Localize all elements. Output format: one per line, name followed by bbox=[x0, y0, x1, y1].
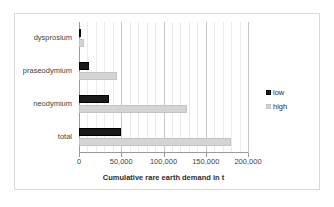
x-tick-label: 200,000 bbox=[234, 158, 261, 166]
legend-swatch-high-icon bbox=[266, 104, 271, 109]
legend-label-high: high bbox=[273, 103, 287, 111]
x-tick-label: 100,000 bbox=[150, 158, 177, 166]
legend-label-low: low bbox=[273, 89, 284, 97]
category-label-dysprosium: dysprosium bbox=[0, 34, 72, 42]
bar-total-high bbox=[79, 138, 231, 146]
bar-neodymium-low bbox=[79, 95, 109, 103]
bar-praseodymium-low bbox=[79, 62, 89, 70]
category-label-neodymium: neodymium bbox=[0, 100, 72, 108]
x-tick-label: 150,000 bbox=[192, 158, 219, 166]
bar-praseodymium-high bbox=[79, 72, 117, 80]
legend-item-low: low bbox=[266, 89, 287, 97]
bar-group bbox=[79, 22, 248, 55]
bar-dysprosium-low bbox=[79, 29, 81, 37]
bar-dysprosium-high bbox=[79, 39, 84, 47]
chart-legend: low high bbox=[266, 89, 287, 110]
chart-container: dysprosiumpraseodymiumneodymiumtotal 050… bbox=[0, 0, 334, 207]
legend-swatch-low-icon bbox=[266, 90, 271, 95]
bar-group bbox=[79, 55, 248, 88]
category-label-total: total bbox=[0, 133, 72, 141]
x-axis-title: Cumulative rare earth demand in t bbox=[79, 174, 248, 182]
plot-area bbox=[79, 22, 248, 153]
bar-group bbox=[79, 120, 248, 153]
category-label-praseodymium: praseodymium bbox=[0, 67, 72, 75]
bar-total-low bbox=[79, 128, 121, 136]
bar-neodymium-high bbox=[79, 105, 187, 113]
x-tick-label: 0 bbox=[77, 158, 81, 166]
x-tick-label: 50,000 bbox=[110, 158, 133, 166]
bar-group bbox=[79, 88, 248, 121]
legend-item-high: high bbox=[266, 103, 287, 111]
gridline-major bbox=[248, 22, 249, 153]
